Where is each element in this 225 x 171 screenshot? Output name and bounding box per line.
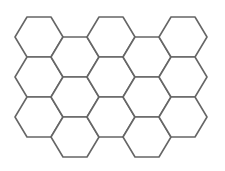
hexagon-grid-diagram	[0, 0, 225, 171]
hexagon-layer	[15, 17, 207, 157]
